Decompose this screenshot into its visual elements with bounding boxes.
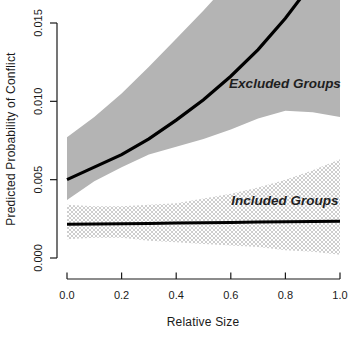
x-axis-title: Relative Size [103, 315, 303, 329]
x-tick-label: 0.8 [278, 289, 293, 301]
y-tick-label: 0.010 [32, 88, 44, 116]
included-groups-label: Included Groups [215, 193, 355, 208]
y-axis-title: Predicted Probability of Conflict [4, 0, 18, 289]
x-tick-label: 0.2 [114, 289, 129, 301]
x-tick-label: 0.4 [169, 289, 184, 301]
y-tick-label: 0.000 [32, 244, 44, 272]
x-tick-label: 0.6 [223, 289, 238, 301]
y-tick-label: 0.005 [32, 166, 44, 194]
chart-canvas: 0.0000.0050.0100.0150.00.20.40.60.81.0 [0, 0, 357, 337]
x-tick-label: 1.0 [332, 289, 347, 301]
conflict-probability-figure: 0.0000.0050.0100.0150.00.20.40.60.81.0 P… [0, 0, 357, 337]
excluded-groups-label: Excluded Groups [215, 76, 355, 91]
y-tick-label: 0.015 [32, 9, 44, 37]
x-tick-label: 0.0 [59, 289, 74, 301]
confidence-bands [67, 0, 340, 255]
